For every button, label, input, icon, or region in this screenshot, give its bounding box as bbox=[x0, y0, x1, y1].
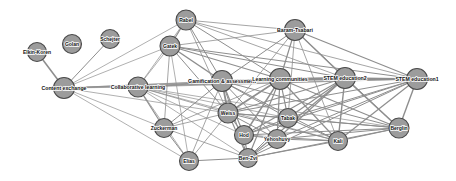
node-label: Gamification & assessment bbox=[188, 78, 256, 84]
graph-node-zuckerman[interactable]: Zuckerman bbox=[151, 119, 178, 138]
graph-edge bbox=[170, 46, 345, 78]
node-label: Tabak bbox=[281, 115, 295, 121]
node-label: Baram-Tsabari bbox=[277, 27, 314, 33]
node-label: Elias bbox=[183, 158, 195, 164]
graph-edge bbox=[64, 46, 170, 88]
graph-node-ben-zvi[interactable]: Ben-Zvi bbox=[239, 149, 258, 168]
node-label: Zuckerman bbox=[151, 125, 178, 131]
graph-node-rabel[interactable]: Rabel bbox=[176, 10, 196, 30]
graph-node-berglin[interactable]: Berglin bbox=[389, 118, 409, 138]
graph-node-elias[interactable]: Elias bbox=[180, 152, 199, 171]
graph-node-stem-education2[interactable]: STEM education2 bbox=[323, 68, 366, 89]
graph-node-yehoshuvy[interactable]: Yehoshuvy bbox=[264, 130, 291, 149]
node-label: Golan bbox=[65, 41, 79, 47]
node-label: Learning communities bbox=[252, 76, 307, 82]
graph-node-elkin-koren[interactable]: Elkin-Koren bbox=[23, 43, 51, 62]
node-label: Berglin bbox=[390, 125, 407, 131]
node-label: STEM education1 bbox=[395, 76, 438, 82]
node-label: Ben-Zvi bbox=[239, 155, 258, 161]
graph-edge bbox=[170, 46, 189, 161]
node-label: Weiss bbox=[221, 110, 236, 116]
graph-node-tabak[interactable]: Tabak bbox=[279, 109, 298, 128]
graph-node-kali[interactable]: Kali bbox=[329, 132, 348, 151]
node-label: Yehoshuvy bbox=[264, 136, 291, 142]
graph-edge bbox=[244, 78, 345, 135]
node-label: Content exchange bbox=[42, 85, 87, 91]
node-label: Kali bbox=[333, 138, 343, 144]
node-label: STEM education2 bbox=[323, 75, 366, 81]
node-label: Collaborative learning bbox=[111, 84, 165, 90]
node-label: Gatek bbox=[163, 43, 177, 49]
graph-node-baram-tsabari[interactable]: Baram-Tsabari bbox=[277, 20, 314, 41]
graph-edge bbox=[295, 30, 417, 79]
graph-edge bbox=[186, 20, 228, 113]
graph-edge bbox=[186, 20, 345, 78]
graph-node-learning-communities[interactable]: Learning communities bbox=[252, 69, 307, 90]
graph-node-weiss[interactable]: Weiss bbox=[218, 103, 238, 123]
graph-node-collaborative-learning[interactable]: Collaborative learning bbox=[111, 77, 165, 97]
node-label: Elkin-Koren bbox=[23, 49, 51, 55]
node-label: Schejter bbox=[100, 36, 120, 42]
node-label: Hod bbox=[239, 132, 249, 138]
network-graph: Elkin-KorenGolanSchejterContent exchange… bbox=[0, 0, 456, 181]
graph-node-gatek[interactable]: Gatek bbox=[160, 36, 180, 56]
node-label: Rabel bbox=[179, 17, 193, 23]
graph-node-schejter[interactable]: Schejter bbox=[100, 30, 120, 49]
graph-node-gamification[interactable]: Gamification & assessment bbox=[188, 71, 256, 92]
graph-edge bbox=[138, 20, 186, 87]
graph-node-hod[interactable]: Hod bbox=[235, 126, 254, 145]
graph-node-golan[interactable]: Golan bbox=[63, 35, 82, 54]
graph-node-content-exchange[interactable]: Content exchange bbox=[42, 78, 87, 99]
